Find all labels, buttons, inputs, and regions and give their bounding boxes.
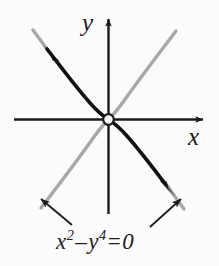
equation-rhs: 0 bbox=[122, 229, 134, 254]
curve-figure: y x x2–y4=0 bbox=[0, 0, 219, 266]
equation-base-1: x bbox=[56, 229, 67, 254]
equation-operator-minus: – bbox=[74, 229, 88, 254]
curve-plot-svg bbox=[0, 0, 219, 266]
origin-open-circle bbox=[103, 114, 114, 125]
x-axis-label: x bbox=[188, 124, 199, 149]
equation-pointer-group bbox=[41, 199, 181, 227]
equation-operator-equals: = bbox=[107, 229, 122, 254]
equation-pointer-right bbox=[150, 199, 181, 227]
untraced-branch-lower-left bbox=[41, 120, 109, 209]
y-axis-label: y bbox=[82, 10, 93, 35]
untraced-branch-upper-right bbox=[109, 31, 177, 120]
equation-pointer-left bbox=[41, 199, 72, 225]
direction-arrowhead-upper-left bbox=[43, 45, 59, 61]
equation-label: x2–y4=0 bbox=[56, 230, 134, 253]
equation-exponent-2: 4 bbox=[99, 227, 107, 243]
direction-arrowhead-lower-right bbox=[160, 181, 176, 197]
traced-branch-lower-right bbox=[109, 120, 171, 191]
equation-base-2: y bbox=[88, 229, 99, 254]
